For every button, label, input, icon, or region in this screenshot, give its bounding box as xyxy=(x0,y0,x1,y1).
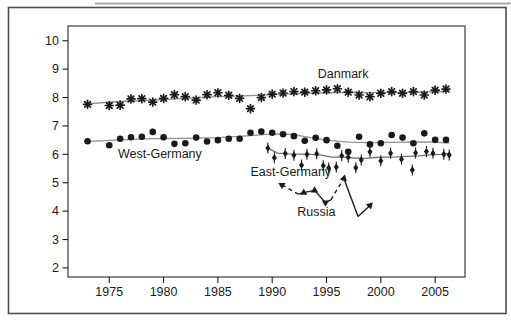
series-danmark: Danmark xyxy=(84,67,450,113)
y-tick-label: 7 xyxy=(52,119,59,133)
circle-marker xyxy=(323,137,330,144)
diamond-marker xyxy=(367,148,372,155)
x-tick-label: 2005 xyxy=(421,285,449,299)
y-axis: 2345678910 xyxy=(45,34,68,275)
diamond-marker xyxy=(447,151,452,158)
y-tick-label: 3 xyxy=(52,233,59,247)
circle-marker xyxy=(291,133,298,140)
figure-frame xyxy=(9,8,507,314)
circle-marker xyxy=(280,131,287,138)
diamond-marker xyxy=(265,144,270,151)
circle-marker xyxy=(182,140,189,147)
circle-marker xyxy=(247,129,254,136)
circle-marker xyxy=(410,140,417,147)
circle-marker xyxy=(312,135,319,142)
y-tick-label: 6 xyxy=(52,148,59,162)
triangle-marker xyxy=(311,186,318,192)
y-tick-label: 2 xyxy=(52,261,59,275)
diamond-marker xyxy=(441,151,446,158)
x-axis: 1975198019851990199520002005 xyxy=(95,277,449,299)
diamond-marker xyxy=(378,157,383,164)
diamond-marker xyxy=(334,164,339,171)
russia-line-segment xyxy=(282,185,298,194)
diamond-marker xyxy=(353,164,358,171)
circle-marker xyxy=(139,133,146,140)
diamond-marker xyxy=(304,151,309,158)
circle-marker xyxy=(356,133,363,140)
x-tick-label: 1985 xyxy=(204,285,232,299)
figure-page: 23456789101975198019851990199520002005Da… xyxy=(0,0,511,322)
diamond-marker xyxy=(339,152,344,159)
x-tick-label: 1980 xyxy=(150,285,178,299)
circle-marker xyxy=(160,134,167,141)
circle-marker xyxy=(225,135,232,142)
diamond-marker xyxy=(272,154,277,161)
circle-marker xyxy=(388,132,395,139)
diamond-marker xyxy=(346,154,351,161)
circle-marker xyxy=(301,137,308,144)
diamond-marker xyxy=(283,150,288,157)
circle-marker xyxy=(269,129,276,136)
circle-marker xyxy=(258,128,265,135)
diamond-marker xyxy=(314,150,319,157)
x-tick-label: 1995 xyxy=(313,285,341,299)
circle-marker xyxy=(378,140,385,147)
circle-marker xyxy=(193,134,200,141)
x-tick-label: 1990 xyxy=(258,285,286,299)
russia-line-segment xyxy=(344,178,358,216)
circle-marker xyxy=(236,135,243,142)
series-west-germany: West-Germany xyxy=(84,128,449,161)
diamond-marker xyxy=(359,156,364,163)
y-tick-label: 4 xyxy=(52,204,59,218)
west-germany-series-label: West-Germany xyxy=(118,147,203,161)
life-satisfaction-chart: 23456789101975198019851990199520002005Da… xyxy=(0,0,511,322)
series-russia: Russia xyxy=(278,174,373,219)
circle-marker xyxy=(432,137,439,144)
triangle-marker xyxy=(340,174,347,181)
y-tick-label: 10 xyxy=(45,34,59,48)
circle-marker xyxy=(215,137,222,144)
diamond-marker xyxy=(410,166,415,173)
y-tick-label: 8 xyxy=(52,91,59,105)
russia-line-segment xyxy=(358,205,370,216)
circle-marker xyxy=(128,134,135,141)
x-tick-label: 1975 xyxy=(95,285,123,299)
y-tick-label: 5 xyxy=(52,176,59,190)
russia-series-label: Russia xyxy=(297,205,335,219)
circle-marker xyxy=(204,138,211,145)
circle-marker xyxy=(117,135,124,142)
circle-marker xyxy=(106,142,113,149)
circle-marker xyxy=(84,138,91,145)
y-tick-label: 9 xyxy=(52,62,59,76)
circle-marker xyxy=(421,130,428,137)
circle-marker xyxy=(399,134,406,141)
circle-marker xyxy=(149,129,156,136)
diamond-marker xyxy=(424,148,429,155)
circle-marker xyxy=(334,143,341,150)
diamond-marker xyxy=(388,150,393,157)
russia-line-segment xyxy=(331,178,344,199)
x-tick-label: 2000 xyxy=(367,285,395,299)
diamond-marker xyxy=(291,152,296,159)
series-east-germany: East-Germany xyxy=(251,143,452,179)
diamond-marker xyxy=(430,150,435,157)
circle-marker xyxy=(443,137,450,144)
danmark-series-label: Danmark xyxy=(318,67,369,81)
east-germany-series-label: East-Germany xyxy=(251,165,332,179)
